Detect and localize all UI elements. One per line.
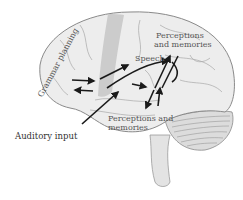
brain-diagram: Grammar planning Speech Perceptions and … (0, 0, 243, 200)
label-speech: Speech (135, 55, 165, 63)
brain-illustration (0, 0, 243, 200)
label-perceptions-lower-2: memories (108, 124, 148, 132)
label-perceptions-upper-1: Perceptions (156, 32, 204, 40)
brainstem (150, 135, 170, 187)
label-auditory-input: Auditory input (15, 132, 77, 140)
label-perceptions-lower-1: Perceptions and (108, 115, 173, 123)
label-perceptions-upper-2: and memories (154, 41, 212, 49)
